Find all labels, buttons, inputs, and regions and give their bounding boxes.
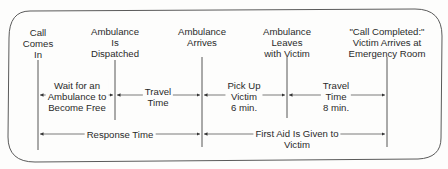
event-label-call-comes-in: Call Comes In	[23, 27, 53, 60]
interval-label-wait: Wait for an Ambulance to Become Free	[46, 80, 109, 113]
span-label-response-time: Response Time	[85, 129, 156, 140]
event-label-leaves: Ambulance Leaves with Victim	[263, 26, 311, 59]
interval-label-travel-2: Travel Time 8 min.	[321, 80, 351, 113]
event-label-dispatched: Ambulance Is Dispatched	[91, 26, 139, 59]
span-label-first-aid: First Aid Is Given to Victim	[253, 128, 340, 150]
interval-label-travel-1: Travel Time	[143, 86, 173, 108]
event-label-arrives: Ambulance Arrives	[178, 26, 226, 48]
ambulance-timeline-diagram: Call Comes In Ambulance Is Dispatched Am…	[0, 0, 448, 169]
interval-label-pickup: Pick Up Victim 6 min.	[225, 80, 262, 113]
event-label-call-completed: "Call Completed:" Victim Arrives at Emer…	[349, 26, 426, 59]
